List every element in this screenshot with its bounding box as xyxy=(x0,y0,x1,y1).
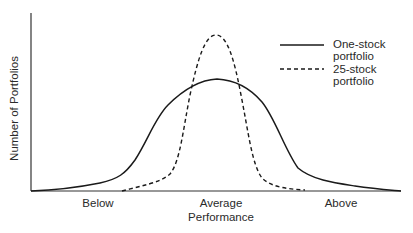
legend-one-stock: One-stock portfolio xyxy=(333,38,385,62)
x-label-above: Above xyxy=(325,197,358,210)
x-label-below: Below xyxy=(82,197,113,210)
x-label-average: Average xyxy=(200,197,243,210)
one-stock-curve xyxy=(31,79,401,191)
legend-one-stock-line1: One-stock xyxy=(333,38,385,50)
twenty-five-stock-curve xyxy=(122,35,305,191)
legend-25-stock: 25-stock portfolio xyxy=(333,63,376,87)
legend-25-stock-line1: 25-stock xyxy=(333,63,376,75)
legend-one-stock-line2: portfolio xyxy=(333,50,385,62)
y-axis-label: Number of Portfolios xyxy=(8,49,21,169)
legend-25-stock-line2: portfolio xyxy=(333,75,376,87)
x-axis-title: Performance xyxy=(188,211,254,224)
